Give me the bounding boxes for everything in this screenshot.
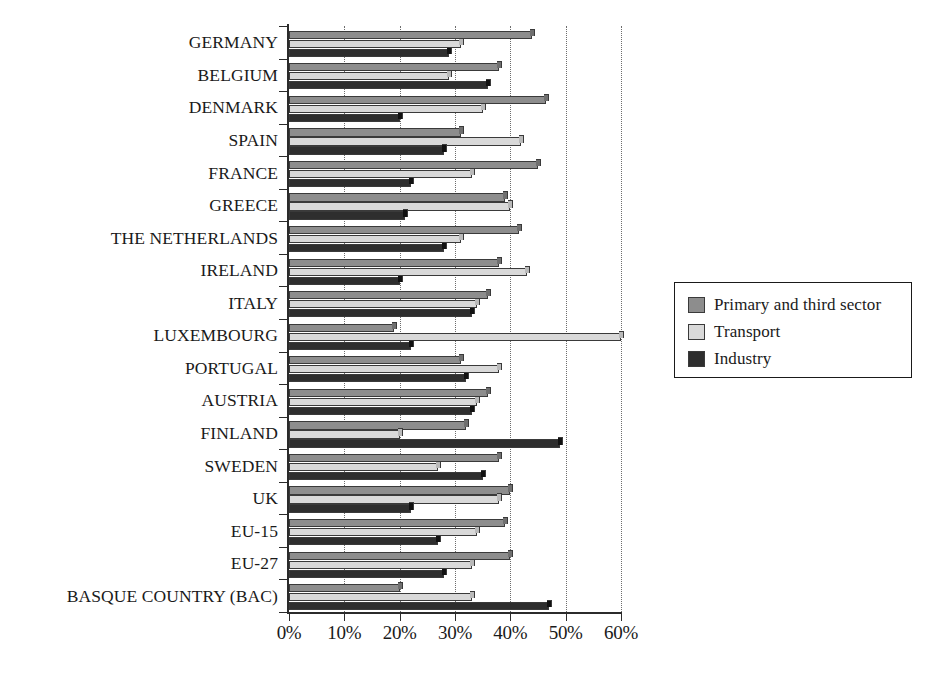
gridline — [566, 26, 568, 612]
bar-cap — [442, 242, 447, 249]
bar-industry — [289, 407, 472, 415]
bar-industry — [289, 277, 400, 285]
category-label: LUXEMBOURG — [154, 325, 278, 346]
bar-cap — [497, 452, 502, 459]
bar-cap — [619, 331, 624, 338]
bar-primary — [289, 421, 466, 429]
bar-primary — [289, 96, 546, 104]
bar-cap — [536, 159, 541, 166]
y-axis-tick — [279, 384, 288, 385]
bar-cap — [497, 61, 502, 68]
bar-transport — [289, 235, 461, 243]
y-axis-tick — [279, 482, 288, 483]
bar-cap — [470, 168, 475, 175]
bar-cap — [436, 461, 441, 468]
y-axis-tick — [279, 26, 288, 27]
bar-cap — [508, 484, 513, 491]
x-axis-tick-label: 10% — [327, 622, 361, 644]
bar-cap — [525, 266, 530, 273]
bar-primary — [289, 324, 394, 332]
bar-primary — [289, 31, 532, 39]
y-axis-tick — [279, 124, 288, 125]
bar-cap — [508, 200, 513, 207]
bar-cap — [470, 559, 475, 566]
category-label: PORTUGAL — [185, 357, 278, 378]
category-label: GERMANY — [189, 32, 278, 53]
bar-chart: 0%10%20%30%40%50%60% GERMANYBELGIUMDENMA… — [0, 0, 945, 673]
bar-transport — [289, 495, 499, 503]
bar-industry — [289, 602, 549, 610]
bar-industry — [289, 374, 466, 382]
y-axis-tick — [279, 417, 288, 418]
category-label: THE NETHERLANDS — [111, 227, 278, 248]
y-axis-tick — [279, 59, 288, 60]
bar-transport — [289, 268, 527, 276]
bar-cap — [481, 103, 486, 110]
bar-cap — [517, 224, 522, 231]
bar-cap — [519, 135, 524, 142]
bar-cap — [481, 470, 486, 477]
bar-industry — [289, 81, 488, 89]
bar-cap — [459, 233, 464, 240]
category-label: EU-27 — [231, 553, 278, 574]
bar-cap — [508, 550, 513, 557]
bar-cap — [409, 340, 414, 347]
category-label: BASQUE COUNTRY (BAC) — [67, 585, 278, 606]
category-label: FRANCE — [208, 162, 278, 183]
y-axis-tick — [279, 156, 288, 157]
bar-transport — [289, 300, 477, 308]
y-axis-tick — [279, 579, 288, 580]
bar-primary — [289, 291, 488, 299]
bar-industry — [289, 114, 400, 122]
bar-primary — [289, 161, 538, 169]
bar-primary — [289, 486, 510, 494]
bar-cap — [392, 322, 397, 329]
bar-industry — [289, 342, 411, 350]
x-axis-tick-label: 20% — [383, 622, 417, 644]
legend-item: Primary and third sector — [688, 292, 911, 318]
x-axis-tick-label: 30% — [438, 622, 472, 644]
bar-cap — [547, 600, 552, 607]
category-label: BELGIUM — [198, 64, 278, 85]
bar-cap — [398, 275, 403, 282]
bar-cap — [497, 493, 502, 500]
bar-industry — [289, 504, 411, 512]
y-axis-tick — [279, 286, 288, 287]
bar-cap — [459, 126, 464, 133]
category-label: DENMARK — [189, 97, 278, 118]
bar-cap — [544, 94, 549, 101]
bar-cap — [398, 428, 403, 435]
bar-transport — [289, 463, 438, 471]
bar-primary — [289, 226, 519, 234]
bar-primary — [289, 356, 461, 364]
x-axis-line — [287, 612, 621, 614]
bar-cap — [409, 177, 414, 184]
category-label: FINLAND — [200, 422, 278, 443]
bar-transport — [289, 202, 510, 210]
bar-cap — [475, 396, 480, 403]
category-label: GREECE — [209, 195, 278, 216]
legend-item: Industry — [688, 346, 911, 372]
bar-cap — [470, 307, 475, 314]
bar-cap — [464, 419, 469, 426]
x-axis-tick — [400, 612, 401, 621]
legend-label: Industry — [714, 349, 771, 369]
bar-industry — [289, 179, 411, 187]
bar-cap — [558, 437, 563, 444]
x-axis-tick-label: 60% — [604, 622, 638, 644]
bar-industry — [289, 146, 444, 154]
y-axis-tick — [279, 514, 288, 515]
bar-transport — [289, 72, 449, 80]
bar-cap — [409, 502, 414, 509]
category-label: EU-15 — [231, 520, 278, 541]
category-label: SPAIN — [229, 129, 278, 150]
bar-transport — [289, 528, 477, 536]
bar-primary — [289, 128, 461, 136]
y-axis-tick — [279, 352, 288, 353]
category-label: AUSTRIA — [201, 390, 278, 411]
x-axis-tick-label: 0% — [277, 622, 302, 644]
bar-cap — [503, 517, 508, 524]
legend-swatch-industry — [688, 351, 705, 367]
category-label: IRELAND — [201, 260, 279, 281]
bar-cap — [497, 363, 502, 370]
